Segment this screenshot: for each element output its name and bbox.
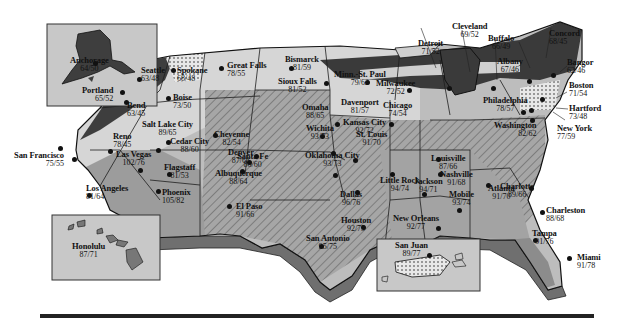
city-dot: [529, 108, 534, 113]
city-dot: [324, 81, 329, 86]
city-label-los-angeles: Los Angeles81/64: [86, 184, 128, 201]
city-label-flagstaff: Flagstaff81/53: [164, 163, 195, 180]
city-dot: [335, 122, 340, 127]
city-label-bangor: Bangor62/46: [567, 58, 593, 75]
city-label-albuquerque: Albuquerque88/64: [215, 169, 262, 186]
city-dot: [108, 149, 113, 154]
city-dot: [457, 208, 462, 213]
city-label-new-york: New York77/59: [557, 124, 592, 141]
city-label-chicago: Chicago74/54: [383, 101, 412, 118]
city-dot: [551, 73, 556, 78]
city-label-boston: Boston71/54: [569, 81, 593, 98]
weather-map: Anchorage64/50 Seattle63/48 Spokane68/48…: [0, 0, 638, 322]
city-dot: [171, 68, 176, 73]
city-label-miami: Miami91/78: [577, 253, 601, 270]
city-label-portland: Portland65/52: [82, 86, 113, 103]
city-label-las-vegas: Las Vegas102/76: [116, 150, 151, 167]
city-label-albany: Albany67/46: [497, 57, 523, 74]
city-label-mobile: Mobile93/74: [449, 190, 474, 207]
city-label-omaha: Omaha88/65: [302, 103, 328, 120]
city-label-cleveland: Cleveland69/52: [452, 22, 487, 39]
city-dot: [389, 122, 394, 127]
city-dot: [540, 210, 545, 215]
city-label-el-paso: El Paso91/66: [236, 202, 262, 219]
city-label-great-falls: Great Falls78/55: [227, 61, 267, 78]
city-label-san-francisco: San Francisco75/55: [14, 151, 64, 168]
city-dot: [156, 148, 161, 153]
city-label-atlanta: Atlanta91/70: [488, 184, 515, 201]
city-label-davenport: Davenport81/57: [341, 98, 379, 115]
city-label-jackson: Jackson94/71: [414, 177, 443, 194]
city-label-philadelphia: Philadelphia78/57: [483, 96, 528, 113]
city-label-anchorage: Anchorage64/50: [70, 56, 109, 73]
city-dot: [120, 90, 125, 95]
city-dot: [138, 168, 143, 173]
city-label-reno: Reno78/45: [113, 132, 132, 149]
city-label-spokane: Spokane68/48: [177, 66, 207, 83]
city-label-honolulu: Honolulu87/71: [72, 242, 105, 259]
city-label-st-louis: St. Louis91/70: [356, 130, 387, 147]
city-label-salt-lake-city: Salt Lake City89/65: [142, 120, 193, 137]
city-label-concord: Concord68/45: [549, 29, 580, 46]
city-label-hartford: Hartford73/48: [569, 104, 601, 121]
city-dot: [491, 86, 496, 91]
city-label-seattle: Seattle63/48: [141, 66, 165, 83]
city-label-bend: Bend63/45: [127, 101, 146, 118]
city-dot: [540, 97, 545, 102]
city-dot: [166, 96, 171, 101]
city-dot: [72, 157, 77, 162]
city-dot: [219, 66, 224, 71]
city-label-oklahoma-city: Oklahoma City93/73: [305, 151, 360, 168]
city-label-bismarck: Bismarck81/59: [285, 55, 319, 72]
city-label-phoenix: Phoenix105/82: [162, 188, 191, 205]
city-dot: [447, 86, 452, 91]
city-label-dallas: Dallas96/76: [340, 190, 362, 207]
city-label-houston: Houston92/75: [341, 216, 371, 233]
city-label-milwaukee: Milwaukee72/52: [376, 79, 415, 96]
city-dot: [156, 189, 161, 194]
city-label-charleston: Charleston88/68: [546, 206, 585, 223]
city-label-wichita: Wichita93/73: [306, 124, 334, 141]
city-label-tampa: Tampa91/76: [532, 229, 557, 246]
city-label-san-antonio: San Antonio95/75: [306, 234, 350, 251]
city-label-boise: Boise73/50: [173, 93, 192, 110]
city-label-new-orleans: New Orleans92/77: [393, 214, 439, 231]
city-label-sioux-falls: Sioux Falls81/52: [278, 77, 317, 94]
city-label-detroit: Detroit71/52: [418, 39, 443, 56]
city-dot: [333, 173, 338, 178]
city-dot: [227, 204, 232, 209]
city-label-buffalo: Buffalo66/49: [488, 34, 514, 51]
city-label-washington: Washington82/62: [494, 121, 536, 138]
city-label-cheyenne: Cheyenne82/54: [214, 130, 249, 147]
bottom-rule-divider: [40, 314, 594, 318]
city-label-cedar-city: Cedar City88/60: [170, 137, 209, 154]
city-label-santa-fe: Santa Fe86/60: [237, 152, 268, 169]
city-dot: [527, 79, 532, 84]
city-label-nashville: Nashville91/68: [440, 170, 473, 187]
city-dot: [567, 256, 572, 261]
city-label-san-juan: San Juan89/77: [395, 241, 428, 258]
